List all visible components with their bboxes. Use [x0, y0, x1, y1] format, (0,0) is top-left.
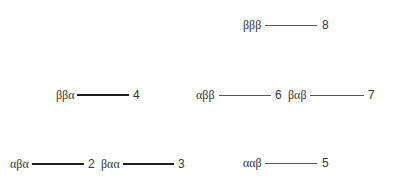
- spin-state-label: βαβ: [288, 88, 307, 102]
- level-line: [265, 25, 317, 26]
- spin-state-label: ααβ: [243, 156, 262, 170]
- level-number: 7: [368, 88, 375, 102]
- energy-level-diagram: αβα 2 βαα 3 ββα 4 ααβ 5 αββ 6 βαβ 7 βββ …: [0, 0, 397, 190]
- energy-level-7: βαβ 7: [0, 88, 397, 102]
- spin-state-label: βββ: [243, 18, 261, 32]
- level-number: 8: [322, 18, 329, 32]
- energy-level-5: ααβ 5: [0, 156, 397, 170]
- energy-level-8: βββ 8: [0, 18, 397, 32]
- level-number: 5: [322, 156, 329, 170]
- level-line: [265, 163, 317, 164]
- level-line: [310, 95, 364, 96]
